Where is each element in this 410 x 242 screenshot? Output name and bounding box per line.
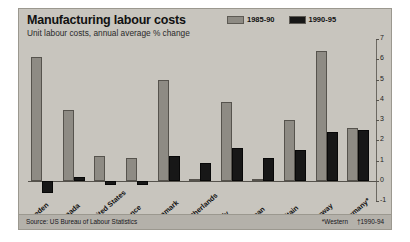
legend-label-1985-90: 1985-90 [247, 15, 275, 24]
y-tick-mark [376, 39, 379, 40]
chart-subtitle: Unit labour costs, annual average % chan… [27, 28, 385, 39]
y-tick-label: 2 [380, 135, 384, 142]
y-tick-label: 7 [380, 34, 384, 41]
bar-group [313, 39, 345, 201]
legend-label-1990-95: 1990-95 [309, 15, 337, 24]
y-tick-mark [376, 140, 379, 141]
bar-1985-90-Japan [252, 179, 263, 181]
bar-1990-95-Germany* [358, 130, 369, 181]
y-tick-label: -1 [380, 196, 386, 203]
chart-footer: Source: US Bureau of Labour Statistics *… [19, 214, 391, 229]
bar-1990-95-France [137, 181, 148, 185]
bar-group [186, 39, 218, 201]
y-tick-mark [376, 59, 379, 60]
y-tick-mark [376, 100, 379, 101]
bar-1990-95-Italy [232, 148, 243, 180]
legend-item-1985-90: 1985-90 [227, 15, 275, 24]
y-tick-label: 5 [380, 75, 384, 82]
y-tick-label: 1 [380, 156, 384, 163]
bar-group [91, 39, 123, 201]
y-tick-mark [376, 161, 379, 162]
bar-1990-95-Norway [327, 132, 338, 181]
y-tick-mark [376, 120, 379, 121]
y-tick-mark [376, 181, 379, 182]
bar-1985-90-Germany* [347, 128, 358, 181]
bar-1985-90-Denmark [158, 80, 169, 181]
source-note: Source: US Bureau of Labour Statistics [26, 218, 137, 225]
bar-1985-90-Norway [316, 51, 327, 181]
y-tick-mark [376, 201, 379, 202]
legend-swatch-1985-90 [227, 16, 244, 24]
y-tick-label: 0 [380, 176, 384, 183]
y-axis: 76543210-1 [376, 39, 392, 201]
y-tick-label: 6 [380, 54, 384, 61]
y-tick-mark [376, 80, 379, 81]
bar-group [28, 39, 60, 201]
footnote-1990-94: †1990-94 [357, 218, 384, 225]
bar-1985-90-United States [94, 156, 105, 180]
bar-1990-95-United States [105, 181, 116, 185]
bar-group [281, 39, 313, 201]
bar-group [344, 39, 376, 201]
bar-1985-90-France [126, 158, 137, 180]
legend-swatch-1990-95 [289, 16, 306, 24]
bar-group [60, 39, 92, 201]
bar-1985-90-Canada [63, 110, 74, 181]
bar-1990-95-Denmark [169, 156, 180, 180]
bar-1990-95-Britain [295, 150, 306, 180]
chart-figure: Manufacturing labour costs Unit labour c… [18, 8, 392, 230]
bar-groups [28, 39, 376, 201]
bar-group [218, 39, 250, 201]
footnote-western: *Western [322, 218, 348, 225]
bar-1990-95-Japan [263, 158, 274, 180]
footnote-group: *Western †1990-94 [322, 218, 384, 225]
bar-1985-90-Italy [221, 102, 232, 181]
chart-legend: 1985-90 1990-95 [227, 15, 336, 24]
bar-1990-95-Canada [74, 177, 85, 181]
bar-1985-90-Sweden [31, 57, 42, 181]
chart-plot-area [28, 39, 376, 201]
bar-1990-95-Netherlands [200, 163, 211, 181]
legend-item-1990-95: 1990-95 [289, 15, 337, 24]
bar-1985-90-Britain [284, 120, 295, 181]
y-tick-label: 3 [380, 115, 384, 122]
y-tick-label: 4 [380, 95, 384, 102]
bar-group [249, 39, 281, 201]
bar-group [123, 39, 155, 201]
bar-group [155, 39, 187, 201]
bar-1990-95-Sweden [42, 181, 53, 193]
bar-1985-90-Netherlands [189, 179, 200, 181]
